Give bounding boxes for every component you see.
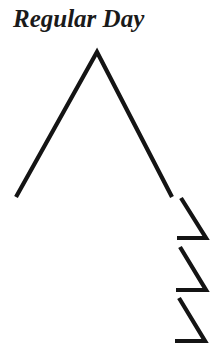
zigzag-segment-3	[175, 298, 205, 341]
zigzag-segment-2	[176, 247, 206, 290]
mood-line-diagram	[0, 0, 222, 360]
zigzag-segment-1	[177, 198, 206, 238]
peak-line	[16, 52, 172, 197]
zigzag-group	[175, 198, 206, 341]
